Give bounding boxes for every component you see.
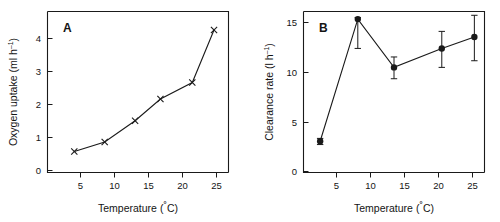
y-tick-label: 1 bbox=[36, 132, 41, 143]
y-tick-label: 10 bbox=[286, 67, 297, 78]
x-tick-label: 15 bbox=[399, 180, 410, 191]
x-axis-title-b: Temperature (˚C) bbox=[354, 200, 434, 214]
figure-container: 4 3 2 1 0 5 10 15 20 25 A bbox=[0, 0, 500, 222]
x-axis-title-a: Temperature (˚C) bbox=[98, 200, 178, 214]
panel-letter-a: A bbox=[63, 21, 72, 35]
y-tick-label: 2 bbox=[36, 99, 41, 110]
data-point-marker bbox=[391, 64, 397, 70]
x-tick-label: 25 bbox=[211, 180, 222, 191]
x-ticks-a bbox=[81, 173, 217, 178]
data-point-marker bbox=[317, 138, 323, 144]
x-tick-label: 20 bbox=[433, 180, 444, 191]
data-markers-a bbox=[71, 27, 217, 155]
y-tick-label: 0 bbox=[36, 165, 41, 176]
plot-frame-a bbox=[48, 12, 229, 173]
x-ticks-b bbox=[337, 173, 473, 178]
y-tick-label: 15 bbox=[286, 17, 297, 28]
x-tick-label: 10 bbox=[109, 180, 120, 191]
data-markers-b bbox=[317, 16, 478, 145]
panel-letter-b: B bbox=[319, 21, 328, 35]
y-ticks-a bbox=[48, 39, 53, 171]
x-tick-label: 25 bbox=[467, 180, 478, 191]
y-tick-label: 0 bbox=[292, 166, 297, 177]
plot-frame-b bbox=[304, 12, 485, 173]
data-point-marker bbox=[471, 34, 477, 40]
data-point-marker bbox=[439, 45, 445, 51]
panel-b: 15 10 5 0 5 10 15 20 25 B Temperature (˚… bbox=[250, 0, 500, 222]
x-tick-label: 5 bbox=[334, 180, 339, 191]
y-axis-title-b: Clearance rate (l h–1) bbox=[263, 43, 275, 141]
error-bars-b bbox=[317, 15, 478, 144]
data-point-marker bbox=[355, 16, 361, 22]
y-ticks-b bbox=[304, 23, 309, 172]
x-tick-label: 10 bbox=[365, 180, 376, 191]
panel-a: 4 3 2 1 0 5 10 15 20 25 A bbox=[0, 0, 250, 222]
y-tick-label: 5 bbox=[292, 117, 297, 128]
y-axis-title-a: Oxygen uptake (ml h–1) bbox=[7, 38, 19, 146]
y-tick-label: 4 bbox=[36, 33, 41, 44]
x-tick-label: 20 bbox=[177, 180, 188, 191]
y-tick-label: 3 bbox=[36, 66, 41, 77]
x-tick-label: 5 bbox=[78, 180, 83, 191]
data-line-a bbox=[74, 30, 214, 151]
data-line-b bbox=[320, 19, 474, 141]
x-tick-label: 15 bbox=[143, 180, 154, 191]
